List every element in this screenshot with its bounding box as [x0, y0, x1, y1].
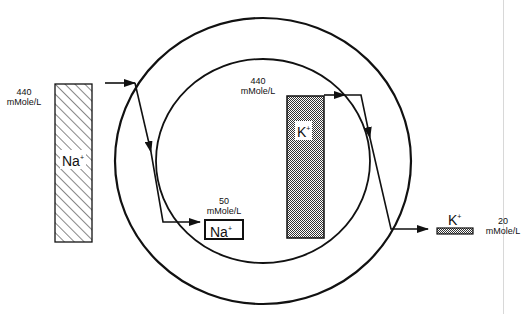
ion-charge: +: [306, 125, 310, 132]
ion-symbol: Na: [62, 153, 80, 169]
ion-charge: +: [228, 225, 232, 232]
sodium-extracellular-label: Na+: [60, 150, 86, 169]
potassium-bar-extracellular: [437, 228, 473, 234]
outer-cell-membrane: [115, 18, 411, 304]
value: 440: [236, 76, 280, 86]
ion-charge: +: [80, 154, 84, 161]
potassium-intracellular-label: K+: [295, 121, 312, 140]
value: 50: [202, 196, 246, 206]
potassium-bar-intracellular: [287, 96, 324, 238]
unit: mMole/L: [480, 226, 526, 236]
potassium-extracellular-label: K+: [446, 209, 463, 228]
sodium-flow-arrow: [105, 83, 200, 222]
unit: mMole/L: [202, 206, 246, 216]
potassium-intracellular-concentration: 440 mMole/L: [236, 76, 280, 96]
potassium-flow-arrow: [324, 95, 428, 229]
sodium-intracellular-label: Na+: [208, 221, 234, 240]
value: 20: [480, 216, 526, 226]
value: 440: [4, 87, 44, 97]
potassium-extracellular-concentration: 20 mMole/L: [480, 216, 526, 236]
ion-symbol: K: [448, 212, 457, 228]
ion-symbol: K: [297, 124, 306, 140]
ion-charge: +: [457, 213, 461, 220]
unit: mMole/L: [236, 86, 280, 96]
sodium-intracellular-concentration: 50 mMole/L: [202, 196, 246, 216]
sodium-extracellular-concentration: 440 mMole/L: [4, 87, 44, 107]
unit: mMole/L: [4, 97, 44, 107]
page-edge-line: [503, 0, 504, 314]
ion-symbol: Na: [210, 224, 228, 240]
